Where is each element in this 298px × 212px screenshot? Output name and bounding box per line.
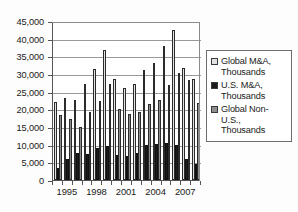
x-axis-tick: [121, 181, 122, 185]
bar-nonus: [197, 103, 200, 180]
legend-swatch-global-icon: [211, 58, 218, 65]
bar-nonus: [59, 115, 62, 180]
bar-nonus: [128, 114, 131, 180]
bar-nonus: [69, 119, 72, 180]
legend-swatch-us-icon: [211, 82, 218, 89]
bar-group: [122, 22, 132, 180]
bar-group: [53, 22, 63, 180]
bar-nonus: [168, 85, 171, 180]
plot-area: [52, 22, 200, 181]
chart-legend: Global M&A, ThousandsU.S. M&A, Thousands…: [206, 50, 292, 142]
legend-item[interactable]: U.S. M&A, Thousands: [211, 80, 287, 101]
bar-nonus: [188, 80, 191, 180]
bar-group: [142, 22, 152, 180]
x-axis-tick: [52, 181, 53, 185]
x-axis-tick-label: 2007: [175, 186, 195, 197]
y-axis-tick-label: 5,000: [22, 158, 45, 168]
x-axis-labels: 19951998200120042007: [52, 186, 200, 206]
bar-group: [152, 22, 162, 180]
x-axis-tick: [111, 181, 112, 185]
x-axis-tick-label: 1998: [86, 186, 106, 197]
bar-nonus: [178, 73, 181, 180]
bar-group: [191, 22, 201, 180]
legend-item[interactable]: Global M&A, Thousands: [211, 56, 287, 77]
y-axis: 05,00010,00015,00020,00025,00030,00035,0…: [0, 0, 50, 212]
bar-group: [162, 22, 172, 180]
bar-group: [132, 22, 142, 180]
x-axis-tick: [101, 181, 102, 185]
bar-nonus: [148, 104, 151, 180]
x-axis-tick: [82, 181, 83, 185]
bar-nonus: [99, 101, 102, 180]
bar-nonus: [79, 127, 82, 180]
y-axis-tick-label: 15,000: [16, 123, 44, 133]
x-axis-tick: [151, 181, 152, 185]
bar-group: [73, 22, 83, 180]
x-axis-tick: [200, 181, 201, 185]
x-axis-tick: [72, 181, 73, 185]
y-axis-tick-label: 35,000: [16, 52, 44, 62]
bar-group: [112, 22, 122, 180]
legend-swatch-nonus-icon: [211, 106, 218, 113]
y-axis-tick-label: 10,000: [16, 141, 44, 151]
y-axis-tick-label: 25,000: [16, 88, 44, 98]
bar-nonus: [118, 109, 121, 180]
x-axis-tick: [161, 181, 162, 185]
chart-container: 05,00010,00015,00020,00025,00030,00035,0…: [0, 0, 298, 212]
legend-item-label: U.S. M&A, Thousands: [221, 80, 265, 101]
legend-item-label: Global M&A, Thousands: [221, 56, 271, 77]
y-axis-tick-label: 40,000: [16, 35, 44, 45]
x-axis-tick: [180, 181, 181, 185]
y-axis-tick-label: 45,000: [16, 17, 44, 27]
bar-group: [92, 22, 102, 180]
x-axis-tick: [62, 181, 63, 185]
bar-nonus: [158, 100, 161, 180]
y-axis-tick-label: 0: [39, 176, 44, 186]
legend-item[interactable]: Global Non- U.S., Thousands: [211, 104, 287, 136]
bar-group: [171, 22, 181, 180]
legend-item-label: Global Non- U.S., Thousands: [221, 104, 268, 136]
x-axis-tick-label: 2001: [116, 186, 136, 197]
bar-group: [102, 22, 112, 180]
x-axis-tick: [131, 181, 132, 185]
bar-group: [63, 22, 73, 180]
x-axis-tick: [141, 181, 142, 185]
bar-nonus: [138, 112, 141, 180]
y-axis-tick-label: 30,000: [16, 70, 44, 80]
bar-nonus: [89, 112, 92, 180]
bar-group: [83, 22, 93, 180]
x-axis-tick: [190, 181, 191, 185]
bar-nonus: [109, 84, 112, 180]
x-axis-tick-label: 1995: [57, 186, 77, 197]
bar-group: [181, 22, 191, 180]
x-axis-tick: [170, 181, 171, 185]
y-axis-tick-label: 20,000: [16, 105, 44, 115]
x-axis-tick: [91, 181, 92, 185]
x-axis-tick-label: 2004: [145, 186, 165, 197]
